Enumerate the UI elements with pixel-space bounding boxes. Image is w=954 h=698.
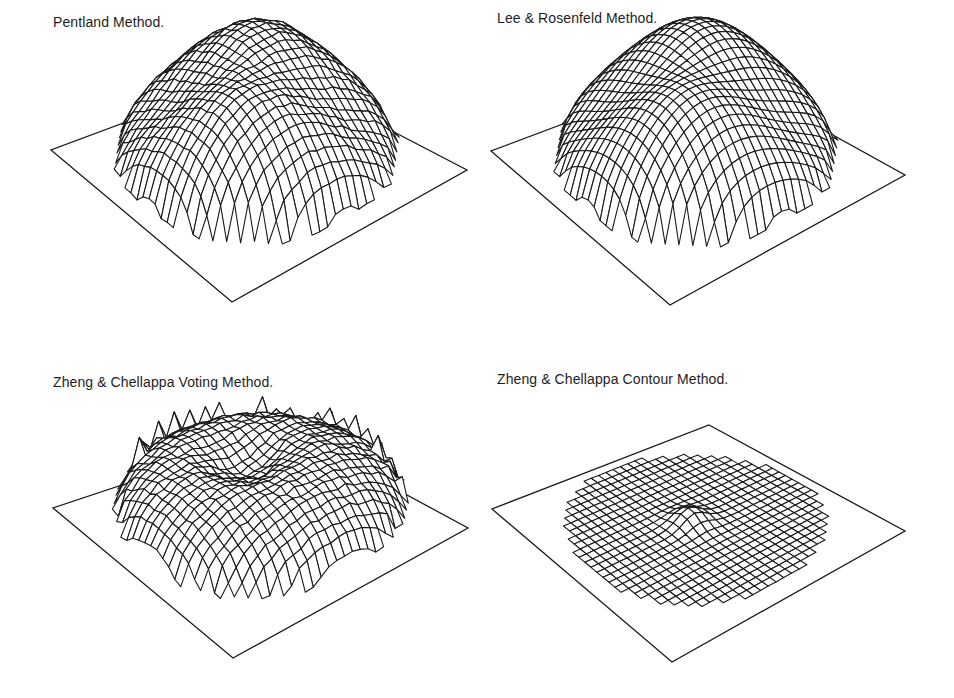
panel-title: Zheng & Chellappa Contour Method. bbox=[497, 371, 728, 387]
wireframe-mesh bbox=[563, 454, 828, 606]
surface-plot-zheng-chellappa-contour bbox=[0, 0, 954, 698]
panel-zheng-chellappa-contour: Zheng & Chellappa Contour Method. bbox=[0, 0, 477, 349]
